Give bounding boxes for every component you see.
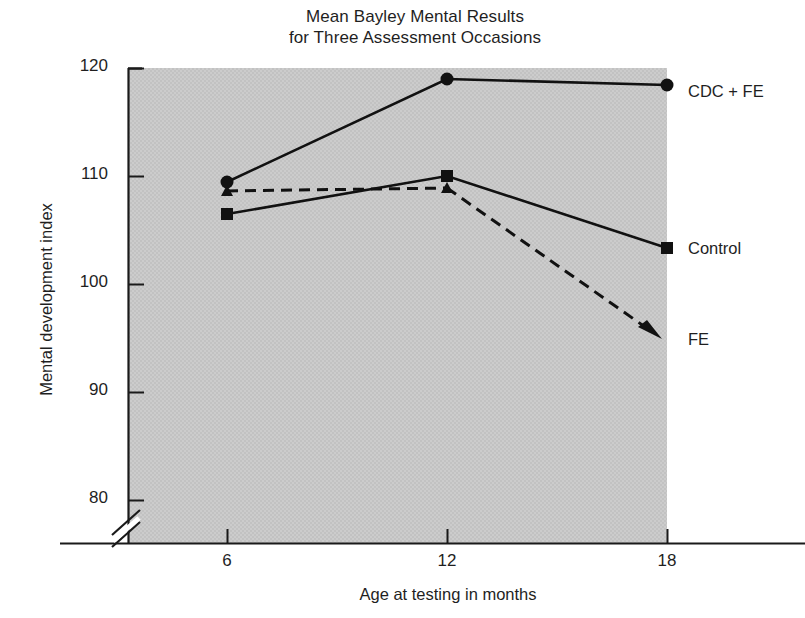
chart-figure: Mean Bayley Mental Results for Three Ass… (0, 0, 805, 618)
series-cdc-fe-marker-18 (661, 79, 674, 92)
series-cdc-fe-marker-6 (221, 176, 234, 189)
series-control-marker-6 (221, 208, 233, 220)
plot-area (0, 0, 805, 618)
series-control-marker-18 (661, 242, 673, 254)
series-cdc-fe-marker-12 (441, 73, 454, 86)
series-control-marker-12 (441, 170, 453, 182)
plot-background (128, 68, 667, 543)
